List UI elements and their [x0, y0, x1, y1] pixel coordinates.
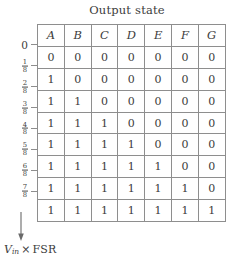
- cell-d-1: 0: [118, 68, 145, 90]
- cell-g-0: 0: [198, 46, 225, 68]
- column-header-e: E: [145, 25, 172, 47]
- cell-e-2: 0: [145, 90, 172, 112]
- table-row: 1111110: [38, 178, 226, 200]
- cell-a-7: 1: [38, 200, 65, 222]
- cell-b-7: 1: [64, 200, 91, 222]
- cell-d-5: 1: [118, 156, 145, 178]
- table-row: 1110000: [38, 112, 226, 134]
- y-tick-label-3: 38: [22, 100, 28, 115]
- table-header-row: ABCDEFG: [38, 25, 226, 47]
- cell-e-0: 0: [145, 46, 172, 68]
- fraction-denominator: 8: [22, 150, 28, 157]
- column-header-a: A: [38, 25, 65, 47]
- axis-caption: Vin×FSR: [4, 243, 56, 256]
- fraction-denominator: 8: [22, 192, 28, 199]
- cell-c-3: 1: [91, 112, 118, 134]
- fraction-denominator: 8: [22, 129, 28, 136]
- cell-d-0: 0: [118, 46, 145, 68]
- thermometer-code-figure: Output state 018283848586878 ABCDEFG 000…: [0, 0, 227, 263]
- y-tick-label-0: 0: [21, 40, 28, 51]
- cell-e-5: 1: [145, 156, 172, 178]
- column-header-d: D: [118, 25, 145, 47]
- cell-f-4: 0: [171, 134, 198, 156]
- cell-b-1: 0: [64, 68, 91, 90]
- cell-a-2: 1: [38, 90, 65, 112]
- cell-d-2: 0: [118, 90, 145, 112]
- cell-f-3: 0: [171, 112, 198, 134]
- cell-f-6: 1: [171, 178, 198, 200]
- y-tick-label-1: 18: [22, 58, 28, 73]
- table-row: 1111111: [38, 200, 226, 222]
- cell-c-4: 1: [91, 134, 118, 156]
- cell-g-6: 0: [198, 178, 225, 200]
- cell-b-6: 1: [64, 178, 91, 200]
- cell-c-6: 1: [91, 178, 118, 200]
- cell-f-2: 0: [171, 90, 198, 112]
- caption-operator: ×: [19, 243, 32, 256]
- y-tick-label-2: 28: [22, 79, 28, 94]
- cell-f-7: 1: [171, 200, 198, 222]
- output-state-table: ABCDEFG 00000001000000110000011100001111…: [37, 24, 226, 222]
- y-axis-labels: 018283848586878: [0, 24, 37, 214]
- cell-g-3: 0: [198, 112, 225, 134]
- cell-e-4: 0: [145, 134, 172, 156]
- cell-c-7: 1: [91, 200, 118, 222]
- cell-b-4: 1: [64, 134, 91, 156]
- caption-variable: V: [4, 243, 12, 256]
- column-header-b: B: [64, 25, 91, 47]
- cell-b-0: 0: [64, 46, 91, 68]
- cell-d-7: 1: [118, 200, 145, 222]
- cell-a-3: 1: [38, 112, 65, 134]
- caption-unit: FSR: [32, 243, 56, 256]
- cell-a-1: 1: [38, 68, 65, 90]
- cell-e-7: 1: [145, 200, 172, 222]
- column-header-f: F: [171, 25, 198, 47]
- cell-c-5: 1: [91, 156, 118, 178]
- cell-a-5: 1: [38, 156, 65, 178]
- table-row: 1100000: [38, 90, 226, 112]
- cell-g-7: 1: [198, 200, 225, 222]
- cell-b-5: 1: [64, 156, 91, 178]
- cell-e-6: 1: [145, 178, 172, 200]
- table-row: 0000000: [38, 46, 226, 68]
- cell-e-3: 0: [145, 112, 172, 134]
- cell-c-1: 0: [91, 68, 118, 90]
- cell-a-4: 1: [38, 134, 65, 156]
- cell-a-6: 1: [38, 178, 65, 200]
- cell-b-3: 1: [64, 112, 91, 134]
- cell-d-3: 0: [118, 112, 145, 134]
- column-header-g: G: [198, 25, 225, 47]
- cell-f-1: 0: [171, 68, 198, 90]
- cell-f-5: 0: [171, 156, 198, 178]
- cell-g-5: 0: [198, 156, 225, 178]
- table-row: 1111100: [38, 156, 226, 178]
- table-row: 1000000: [38, 68, 226, 90]
- cell-d-6: 1: [118, 178, 145, 200]
- fraction-denominator: 8: [22, 66, 28, 73]
- page-title: Output state: [36, 3, 218, 17]
- y-tick-label-4: 48: [22, 121, 28, 136]
- input-direction-arrow: [13, 212, 29, 242]
- fraction-denominator: 8: [22, 87, 28, 94]
- cell-d-4: 1: [118, 134, 145, 156]
- cell-c-2: 0: [91, 90, 118, 112]
- cell-c-0: 0: [91, 46, 118, 68]
- cell-g-4: 0: [198, 134, 225, 156]
- fraction-denominator: 8: [22, 171, 28, 178]
- cell-e-1: 0: [145, 68, 172, 90]
- table-row: 1111000: [38, 134, 226, 156]
- column-header-c: C: [91, 25, 118, 47]
- cell-f-0: 0: [171, 46, 198, 68]
- cell-a-0: 0: [38, 46, 65, 68]
- cell-g-2: 0: [198, 90, 225, 112]
- cell-b-2: 1: [64, 90, 91, 112]
- y-tick-label-6: 68: [22, 163, 28, 178]
- y-tick-label-5: 58: [22, 142, 28, 157]
- y-tick-label-7: 78: [22, 184, 28, 199]
- fraction-denominator: 8: [22, 108, 28, 115]
- cell-g-1: 0: [198, 68, 225, 90]
